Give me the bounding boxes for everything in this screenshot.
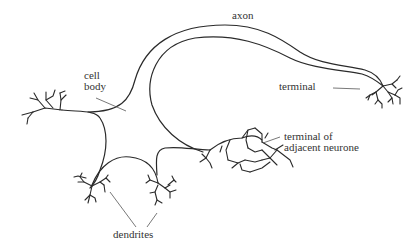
- dendrites-leader-right: [147, 213, 157, 227]
- bottom-right-dendrite-tree: [146, 175, 176, 205]
- label-dendrites: dendrites: [113, 229, 153, 240]
- axon-terminal-branches: [366, 76, 402, 108]
- left-dendrite-tree: [22, 90, 66, 124]
- terminal-leader: [333, 88, 360, 89]
- dendrites-leader-left: [110, 192, 136, 227]
- adjacent-terminal-network: [200, 128, 293, 172]
- neurone-diagram: axon cell body terminal terminal of adja…: [0, 0, 419, 250]
- label-axon: axon: [232, 10, 253, 21]
- label-adjacent-line2: adjacent neurone: [284, 142, 359, 153]
- neurone-drawing: [0, 0, 419, 250]
- label-cell-body-line2: body: [84, 81, 106, 92]
- bottom-left-dendrite-tree: [74, 173, 110, 203]
- label-terminal: terminal: [279, 81, 316, 92]
- cell-body-left-line: [62, 110, 106, 188]
